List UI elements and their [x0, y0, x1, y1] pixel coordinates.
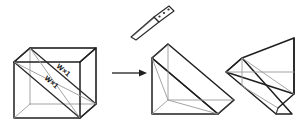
cut-plane-bottom-edge [80, 104, 96, 118]
wedge-left-edge-bottom-connector [152, 100, 168, 114]
cube-bottom-left-connector [14, 104, 30, 118]
wedge-right-outer-face [226, 38, 294, 94]
stage-wedge-right [226, 38, 294, 114]
wedge-left-edge-top-connector [152, 44, 168, 58]
knife-rivet-1 [158, 15, 160, 17]
cube-top-outline [14, 48, 96, 62]
wedge-right-edge-bottom-connector [276, 108, 278, 114]
arrow-head [139, 70, 147, 77]
stage-wedge-left [152, 44, 234, 114]
knife-rivet-2 [163, 12, 165, 14]
cut-plane-top-edge [14, 48, 30, 62]
cube-right-face [80, 48, 96, 118]
knife-icon [131, 6, 174, 40]
knife-blade-shape [131, 17, 159, 40]
process-arrow [112, 70, 147, 77]
wedge-left-edge-corner-connector [218, 100, 234, 114]
figure-canvas: Cube cut diagonally into two triangular … [0, 0, 308, 134]
stage-cube: W×1 W×1 [14, 48, 96, 118]
cube-right-outline [80, 48, 96, 118]
knife-rivet-3 [167, 8, 169, 10]
cube-cutting-diagram: Cube cut diagonally into two triangular … [0, 0, 308, 134]
wedge-right-side-face [278, 38, 294, 108]
wedge-right-hidden-diagonal [242, 86, 278, 108]
cube-top-face [14, 48, 96, 62]
wedge-right-interior-diagonal [242, 58, 294, 94]
